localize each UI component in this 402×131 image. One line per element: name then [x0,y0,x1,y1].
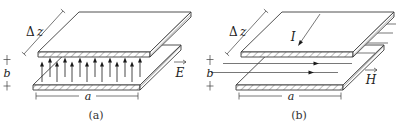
gap-label: b [3,67,10,80]
panel-a: Δ z b a E (a) [3,9,191,122]
width-label: a [288,90,295,103]
width-label: a [85,90,92,103]
svg-text:E: E [175,66,185,80]
delta-z-label-var: z [36,25,44,39]
current-label: I [290,30,296,44]
diagram-canvas: Δ z b a E (a) Δ [0,0,402,131]
panel-b: Δ z b a I H (b) [206,9,396,122]
vector-arrow-icon [174,60,186,64]
figure-parallel-plate-fields: Δ z b a E (a) Δ [0,0,402,131]
delta-z-label-delta: Δ [229,25,238,39]
caption-b: (b) [291,109,307,122]
e-field-label: E [174,60,186,80]
svg-text:H: H [365,73,377,87]
caption-a: (a) [88,109,103,122]
vector-arrow-icon [365,68,377,72]
h-field-label: H [365,68,377,87]
delta-z-label-var: z [239,25,247,39]
delta-z-label-delta: Δ [26,25,35,39]
gap-label: b [206,67,213,80]
